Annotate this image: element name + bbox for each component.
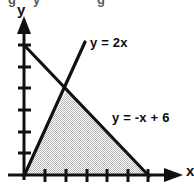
coordinate-plane <box>0 0 194 192</box>
equation-label-line1: y = 2x <box>90 36 128 49</box>
y-axis-arrowhead <box>17 16 31 34</box>
graph-figure: g y g y x y = 2x y = -x + 6 <box>0 0 194 192</box>
x-axis-label: x <box>186 163 194 178</box>
y-axis-label: y <box>17 2 25 17</box>
equation-label-line2: y = -x + 6 <box>112 111 170 124</box>
x-axis-arrowhead <box>164 168 183 182</box>
